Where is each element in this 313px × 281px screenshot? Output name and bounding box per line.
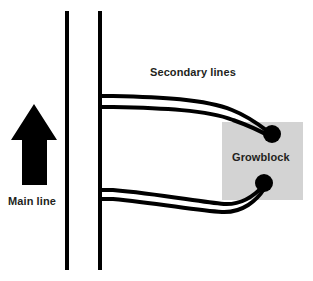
flow-direction-arrow-icon [11, 104, 57, 185]
emitter-lower [255, 174, 273, 192]
secondary-lines-label: Secondary lines [150, 66, 236, 78]
irrigation-diagram: Main line Secondary lines Growblock [0, 0, 313, 281]
growblock-label: Growblock [232, 151, 291, 163]
diagram-canvas: Main line Secondary lines Growblock [0, 0, 313, 281]
main-line-label: Main line [8, 195, 56, 207]
emitter-upper [263, 125, 281, 143]
